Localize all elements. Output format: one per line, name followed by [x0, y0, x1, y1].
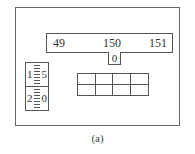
- grid-cell: [131, 74, 149, 85]
- grid-cell: [113, 74, 131, 85]
- bar-left-value: 49: [53, 37, 65, 49]
- tick-marks-icon: [34, 89, 40, 108]
- spinner-top-cell[interactable]: 1 5: [26, 63, 48, 87]
- bar-notch: 0: [108, 52, 121, 65]
- grid-cell: [113, 85, 131, 96]
- grid-cell: [96, 74, 114, 85]
- figure-caption: (a): [0, 132, 195, 144]
- digit-spinner[interactable]: 1 5 2 0: [25, 62, 49, 111]
- tick-marks-icon: [34, 65, 40, 84]
- spinner-top-right-digit: 5: [42, 68, 48, 80]
- bar-center-value: 150: [103, 37, 121, 49]
- grid-cell: [131, 85, 149, 96]
- grid-cell: [78, 74, 96, 85]
- top-number-bar: 49 150 151: [46, 33, 173, 53]
- bar-right-value: 151: [149, 37, 167, 49]
- spinner-bottom-right-digit: 0: [42, 92, 48, 104]
- empty-grid: [77, 73, 149, 96]
- spinner-bottom-left-digit: 2: [27, 92, 33, 104]
- grid-cell: [78, 85, 96, 96]
- grid-cell: [96, 85, 114, 96]
- spinner-bottom-cell[interactable]: 2 0: [26, 87, 48, 110]
- spinner-top-left-digit: 1: [27, 68, 33, 80]
